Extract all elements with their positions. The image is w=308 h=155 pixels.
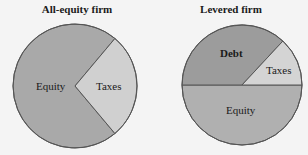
pie-levered: Debt Taxes Equity <box>182 25 302 145</box>
pie-charts: Equity Taxes Debt Taxes Equity <box>0 0 308 155</box>
label-equity: Equity <box>36 80 66 92</box>
label-taxes: Taxes <box>96 80 122 92</box>
pie-all-equity: Equity Taxes <box>13 24 137 148</box>
label-taxes: Taxes <box>266 64 292 76</box>
label-equity: Equity <box>226 104 256 116</box>
label-debt: Debt <box>220 47 243 59</box>
